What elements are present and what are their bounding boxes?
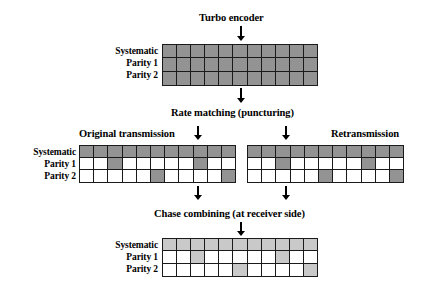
grid-cell <box>179 158 193 170</box>
down-arrow-icon-retransmission-out <box>281 186 290 202</box>
grid-cell <box>248 146 262 158</box>
grid-cell <box>290 72 304 85</box>
grid-cell <box>137 158 151 170</box>
grid-row <box>80 146 235 158</box>
grid-cell <box>123 146 137 158</box>
grid-row <box>248 170 403 182</box>
grid-cell <box>233 239 247 251</box>
grid-cell <box>108 170 122 182</box>
grid-row <box>163 45 317 58</box>
grid-cell <box>219 58 233 71</box>
grid-cell <box>219 72 233 85</box>
grid-cell <box>333 170 347 182</box>
grid-cell <box>347 158 361 170</box>
grid-cell <box>305 146 319 158</box>
grid-cell <box>248 251 262 263</box>
grid-cell <box>177 264 191 276</box>
grid-cell <box>177 58 191 71</box>
grid-cell <box>94 170 108 182</box>
rate-matching-title: Rate matching (puncturing) <box>171 107 294 118</box>
retransmission-label: Retransmission <box>331 128 399 139</box>
grid-cell <box>191 58 205 71</box>
row-label-parity2: Parity 2 <box>44 170 76 182</box>
grid-cell <box>347 170 361 182</box>
grid-cell <box>177 45 191 58</box>
grid-cell <box>165 146 179 158</box>
grid-row <box>163 58 317 71</box>
grid-cell <box>205 58 219 71</box>
grid-cell <box>123 158 137 170</box>
row-label-systematic: Systematic <box>115 45 158 57</box>
row-label-parity1: Parity 1 <box>126 251 158 263</box>
grid-cell <box>163 239 177 251</box>
grid-cell <box>80 158 94 170</box>
grid-cell <box>177 239 191 251</box>
grid-cell <box>179 146 193 158</box>
grid-retransmission <box>247 145 404 183</box>
grid-original-transmission <box>79 145 236 183</box>
row-label-parity2: Parity 2 <box>126 69 158 81</box>
grid-cell <box>194 170 208 182</box>
grid-cell <box>319 170 333 182</box>
chase-row-labels: Systematic Parity 1 Parity 2 <box>82 239 158 276</box>
down-arrow-icon-retransmission <box>281 126 290 142</box>
figure-canvas: Turbo encoder Systematic Parity 1 Parity… <box>0 0 423 294</box>
grid-cell <box>248 58 262 71</box>
grid-cell <box>233 58 247 71</box>
grid-cell <box>362 158 376 170</box>
grid-cell <box>233 72 247 85</box>
down-arrow-icon-chase <box>236 222 245 238</box>
grid-cell <box>248 45 262 58</box>
grid-row <box>163 72 317 85</box>
grid-cell <box>304 239 317 251</box>
grid-cell <box>262 170 276 182</box>
grid-cell <box>233 45 247 58</box>
grid-cell <box>390 170 403 182</box>
grid-cell <box>94 158 108 170</box>
grid-cell <box>291 158 305 170</box>
grid-cell <box>304 72 317 85</box>
grid-row <box>163 251 317 263</box>
grid-cell <box>319 158 333 170</box>
grid-cell <box>137 170 151 182</box>
grid-cell <box>191 72 205 85</box>
down-arrow-icon-original-out <box>193 186 202 202</box>
down-arrow-icon-encoder <box>236 26 245 42</box>
grid-cell <box>262 239 276 251</box>
grid-cell <box>177 251 191 263</box>
grid-cell <box>108 158 122 170</box>
grid-row <box>248 158 403 170</box>
grid-cell <box>165 170 179 182</box>
grid-cell <box>165 158 179 170</box>
grid-cell <box>194 158 208 170</box>
grid-cell <box>163 45 177 58</box>
grid-cell <box>222 146 235 158</box>
grid-cell <box>233 264 247 276</box>
grid-cell <box>177 72 191 85</box>
grid-cell <box>276 45 290 58</box>
grid-row <box>163 239 317 251</box>
grid-chase-combined <box>162 238 318 277</box>
grid-cell <box>151 158 165 170</box>
grid-cell <box>276 58 290 71</box>
grid-cell <box>123 170 137 182</box>
original-transmission-label: Original transmission <box>79 128 175 139</box>
grid-cell <box>262 251 276 263</box>
grid-cell <box>80 170 94 182</box>
grid-cell <box>376 146 390 158</box>
grid-cell <box>80 146 94 158</box>
transmission-row-labels: Systematic Parity 1 Parity 2 <box>0 146 76 183</box>
grid-cell <box>205 264 219 276</box>
grid-cell <box>362 170 376 182</box>
grid-cell <box>248 158 262 170</box>
grid-cell <box>108 146 122 158</box>
grid-cell <box>205 251 219 263</box>
grid-cell <box>205 72 219 85</box>
grid-encoder-output <box>162 44 318 86</box>
grid-cell <box>222 158 235 170</box>
grid-cell <box>222 170 235 182</box>
grid-cell <box>262 58 276 71</box>
grid-cell <box>163 251 177 263</box>
grid-cell <box>219 251 233 263</box>
grid-cell <box>262 72 276 85</box>
